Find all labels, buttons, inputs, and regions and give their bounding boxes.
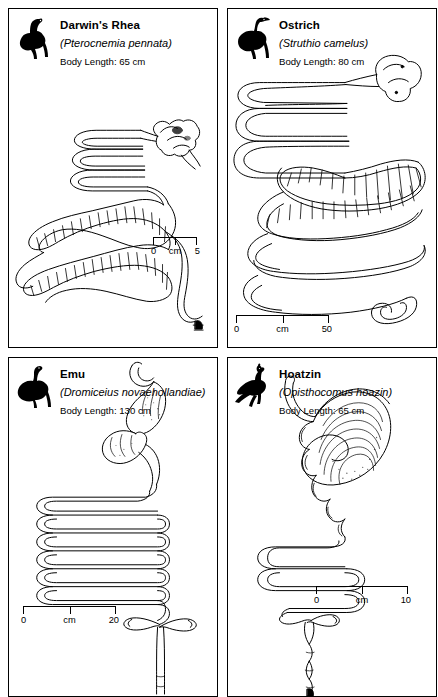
scale-tick-start <box>23 606 24 614</box>
scientific-name: (Pterocnemia pennata) <box>60 37 172 49</box>
scale-labels: 0 cm 10 <box>316 596 408 607</box>
scientific-name: (Opisthocomus hoazin) <box>279 386 392 398</box>
scale-label-zero: 0 <box>21 616 26 625</box>
body-length: Body Length: 130 cm <box>60 405 151 416</box>
scale-labels: 0 cm 20 <box>23 616 116 627</box>
panel-hoatzin: Hoatzin (Opisthocomus hoazin) Body Lengt… <box>227 357 437 697</box>
scale-tick-start <box>316 586 317 594</box>
panel-header-rhea: Darwin's Rhea (Pterocnemia pennata) Body… <box>15 13 215 69</box>
scale-label-zero: 0 <box>314 596 319 605</box>
panel-grid: Darwin's Rhea (Pterocnemia pennata) Body… <box>8 8 432 697</box>
scale-bar-ostrich: 0 cm 50 <box>236 315 329 336</box>
scale-tick-end <box>407 586 408 594</box>
scale-tick-start <box>153 237 154 245</box>
scale-labels: 0 cm 50 <box>236 325 329 336</box>
rhea-silhouette-icon <box>15 13 55 59</box>
scale-tick-start <box>236 315 237 323</box>
body-length: Body Length: 65 cm <box>60 56 145 67</box>
body-length: Body Length: 80 cm <box>279 56 364 67</box>
scale-tick-mid <box>362 586 363 594</box>
scale-label-unit: cm <box>169 247 181 256</box>
scale-tick-end <box>196 237 197 245</box>
panel-darwins-rhea: Darwin's Rhea (Pterocnemia pennata) Body… <box>8 8 218 348</box>
panel-header-emu: Emu (Dromiceius novaehollandiae) Body Le… <box>15 362 215 418</box>
scale-labels: 0 cm 5 <box>153 247 197 258</box>
scale-bar-emu: 0 cm 20 <box>23 606 116 627</box>
scale-bar-hoatzin: 0 cm 10 <box>316 586 408 607</box>
scale-label-unit: cm <box>63 616 75 625</box>
panel-titles-hoatzin: Hoatzin (Opisthocomus hoazin) Body Lengt… <box>279 362 392 418</box>
scale-label-zero: 0 <box>151 247 156 256</box>
emu-silhouette-icon <box>15 362 55 408</box>
common-name: Darwin's Rhea <box>60 19 140 31</box>
scale-bar-rule <box>153 237 197 246</box>
common-name: Hoatzin <box>279 368 321 380</box>
panel-header-ostrich: Ostrich (Struthio camelus) Body Length: … <box>234 13 434 69</box>
scale-label-unit: cm <box>356 596 368 605</box>
scale-label-max: 5 <box>195 247 200 256</box>
body-length: Body Length: 65 cm <box>279 405 364 416</box>
scale-tick-mid <box>70 606 71 614</box>
panel-ostrich: Ostrich (Struthio camelus) Body Length: … <box>227 8 437 348</box>
panel-titles-ostrich: Ostrich (Struthio camelus) Body Length: … <box>279 13 368 69</box>
scale-tick-end <box>328 315 329 323</box>
scientific-name: (Struthio camelus) <box>279 37 368 49</box>
anatomy-figure-plate: Darwin's Rhea (Pterocnemia pennata) Body… <box>0 0 438 697</box>
hoatzin-silhouette-icon <box>234 362 274 408</box>
ostrich-silhouette-icon <box>234 13 274 59</box>
scale-bar-rhea: 0 cm 5 <box>153 237 197 258</box>
scale-bar-rule <box>236 315 329 324</box>
common-name: Ostrich <box>279 19 320 31</box>
scale-label-max: 10 <box>401 596 411 605</box>
scale-label-zero: 0 <box>234 325 239 334</box>
panel-titles-emu: Emu (Dromiceius novaehollandiae) Body Le… <box>60 362 206 418</box>
scale-label-max: 20 <box>109 616 119 625</box>
scale-label-unit: cm <box>276 325 288 334</box>
scale-bar-rule <box>23 606 116 615</box>
scale-tick-mid <box>175 237 176 245</box>
panel-header-hoatzin: Hoatzin (Opisthocomus hoazin) Body Lengt… <box>234 362 434 418</box>
scale-bar-rule <box>316 586 408 595</box>
scale-tick-end <box>115 606 116 614</box>
scale-label-max: 50 <box>322 325 332 334</box>
panel-emu: Emu (Dromiceius novaehollandiae) Body Le… <box>8 357 218 697</box>
scale-tick-mid <box>283 315 284 323</box>
common-name: Emu <box>60 368 85 380</box>
scientific-name: (Dromiceius novaehollandiae) <box>60 386 206 398</box>
panel-titles-rhea: Darwin's Rhea (Pterocnemia pennata) Body… <box>60 13 172 69</box>
